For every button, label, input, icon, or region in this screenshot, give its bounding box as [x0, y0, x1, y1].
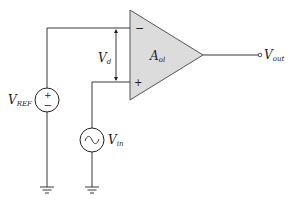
vref-label: VREF: [8, 93, 33, 108]
vd-label: Vd: [98, 51, 112, 66]
vref-minus-sign: −: [44, 100, 52, 111]
vd-arrowhead-bottom: [114, 77, 118, 81]
vd-arrowhead-top: [114, 29, 118, 33]
output-terminal: [258, 53, 262, 57]
vout-label: Vout: [264, 48, 284, 63]
wire-inverting-input: [47, 28, 130, 88]
circuit-diagram: − + Aol Vd Vout + − VREF Vin: [0, 0, 297, 210]
opamp-minus-sign: −: [135, 22, 144, 35]
vin-label: Vin: [108, 133, 124, 148]
wire-noninverting-input: [92, 82, 130, 128]
vref-plus-sign: +: [44, 90, 52, 100]
ground-icon: [40, 187, 54, 193]
opamp-plus-sign: +: [134, 77, 142, 88]
ground-icon: [85, 187, 99, 193]
